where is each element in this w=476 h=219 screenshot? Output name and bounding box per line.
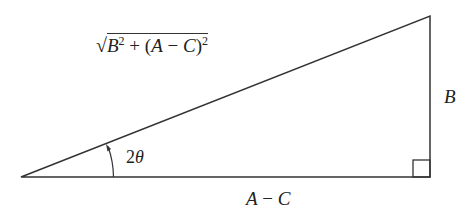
- base-label: A − C: [246, 188, 291, 210]
- plus-paren: + (: [125, 35, 152, 56]
- base-var-c: C: [278, 188, 291, 209]
- angle-coef: 2: [126, 147, 135, 167]
- exp-ac: 2: [202, 34, 208, 48]
- angle-arrowhead: [106, 144, 111, 152]
- minus: −: [163, 35, 183, 56]
- triangle: [21, 16, 430, 177]
- var-b: B: [107, 35, 119, 56]
- vertical-side-label: B: [444, 86, 456, 108]
- hypotenuse-label: √B2 + (A − C)2: [96, 34, 208, 57]
- radicand: B2 + (A − C)2: [107, 33, 208, 56]
- triangle-figure: [0, 0, 476, 219]
- angle-arc: [108, 147, 114, 178]
- var-c: C: [183, 35, 196, 56]
- theta-symbol: θ: [135, 147, 144, 167]
- base-var-a: A: [246, 188, 258, 209]
- right-angle-marker: [413, 160, 430, 177]
- angle-label: 2θ: [126, 147, 144, 168]
- base-minus: −: [258, 188, 278, 209]
- radical-sign: √: [96, 34, 107, 56]
- var-a: A: [151, 35, 163, 56]
